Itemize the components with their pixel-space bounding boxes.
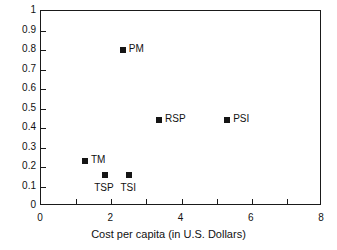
data-point-label: RSP (165, 114, 186, 124)
y-tick (41, 167, 46, 168)
y-tick (41, 187, 46, 188)
y-tick-label: 0.3 (2, 142, 36, 152)
x-tick-label: 2 (98, 213, 122, 223)
y-tick-label: 0.2 (2, 161, 36, 171)
y-tick-label: 0.9 (2, 25, 36, 35)
y-tick (41, 31, 46, 32)
y-tick (41, 148, 46, 149)
data-point-label: PM (129, 44, 144, 54)
y-tick-label: 0 (2, 200, 36, 210)
plot-area (40, 10, 321, 205)
x-tick (252, 199, 253, 204)
data-point-label: TSI (118, 183, 138, 193)
x-axis-title: Cost per capita (in U.S. Dollars) (0, 228, 337, 240)
y-tick-label: 0.7 (2, 64, 36, 74)
y-tick-label: 1 (2, 5, 36, 15)
x-tick (111, 199, 112, 204)
y-tick-label: 0.6 (2, 83, 36, 93)
data-point-marker (120, 47, 126, 53)
x-tick-label: 6 (239, 213, 263, 223)
data-point-marker (82, 158, 88, 164)
x-tick (217, 199, 218, 204)
y-tick-label: 0.5 (2, 103, 36, 113)
y-tick-label: 0.8 (2, 44, 36, 54)
x-tick (146, 199, 147, 204)
data-point-label: TM (91, 155, 105, 165)
data-point-label: PSI (233, 114, 249, 124)
y-tick-label: 0.4 (2, 122, 36, 132)
y-tick (41, 128, 46, 129)
data-point-marker (126, 172, 132, 178)
x-tick (182, 199, 183, 204)
x-tick (287, 199, 288, 204)
x-tick-label: 0 (28, 213, 52, 223)
x-tick-label: 4 (169, 213, 193, 223)
y-tick (41, 89, 46, 90)
data-point-marker (224, 117, 230, 123)
y-tick-label: 0.1 (2, 181, 36, 191)
x-tick-label: 8 (309, 213, 333, 223)
scatter-chart: 00.10.20.30.40.50.60.70.80.91 02468 TMTS… (0, 0, 337, 250)
y-tick (41, 50, 46, 51)
y-tick (41, 109, 46, 110)
data-point-label: TSP (94, 183, 114, 193)
data-point-marker (102, 172, 108, 178)
y-tick (41, 70, 46, 71)
x-tick (76, 199, 77, 204)
data-point-marker (156, 117, 162, 123)
